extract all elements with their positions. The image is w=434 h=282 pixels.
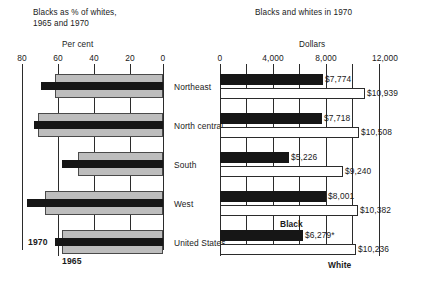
right-bar-black-united-states bbox=[220, 230, 303, 241]
right-axis-unit-label: Dollars bbox=[299, 40, 325, 49]
legend-label-white: White bbox=[328, 260, 351, 270]
right-value-white-northeast: $10,939 bbox=[367, 88, 398, 98]
left-axis-unit-label: Per cent bbox=[62, 40, 93, 49]
right-value-black-south: $5,226 bbox=[291, 152, 317, 162]
row-label-south: South bbox=[174, 160, 196, 170]
right-bar-white-south bbox=[220, 166, 343, 177]
right-xtick-8000: 8,000 bbox=[315, 53, 336, 63]
left-xtick-0: 0 bbox=[161, 53, 166, 63]
right-bar-white-united-states bbox=[220, 244, 356, 255]
right-xtick-12000: 12,000 bbox=[372, 53, 398, 63]
left-xtick-40: 40 bbox=[89, 53, 99, 63]
right-bar-white-northeast bbox=[220, 88, 365, 99]
left-annotation-1970: 1970 bbox=[28, 237, 48, 247]
right-value-white-united-states: $10,236 bbox=[358, 244, 389, 254]
right-bar-white-west bbox=[220, 205, 358, 216]
left-bar-1970-west bbox=[27, 199, 163, 207]
row-label-northeast: Northeast bbox=[174, 82, 211, 92]
left-bar-1970-north-central bbox=[34, 121, 163, 129]
right-bar-white-north-central bbox=[220, 127, 359, 138]
left-xtick-80: 80 bbox=[17, 53, 27, 63]
left-xtick-20: 20 bbox=[125, 53, 135, 63]
left-axis-line-80 bbox=[22, 64, 23, 250]
left-annotation-1965: 1965 bbox=[62, 256, 82, 266]
right-bar-black-west bbox=[220, 191, 326, 202]
right-chart-panel: Blacks and whites in 1970 Dollars 0 4,00… bbox=[212, 0, 434, 282]
right-bar-black-northeast bbox=[220, 74, 323, 85]
right-value-white-west: $10,382 bbox=[360, 205, 391, 215]
row-label-west: West bbox=[174, 199, 193, 209]
left-bar-1970-northeast bbox=[41, 82, 163, 90]
right-value-white-north-central: $10,508 bbox=[361, 127, 392, 137]
right-bar-black-north-central bbox=[220, 113, 322, 124]
right-chart-title: Blacks and whites in 1970 bbox=[255, 8, 352, 19]
right-value-black-west: $8,001 bbox=[328, 191, 354, 201]
right-value-white-south: $9,240 bbox=[345, 166, 371, 176]
left-zero-axis bbox=[163, 64, 164, 250]
right-value-black-united-states: $6,279* bbox=[305, 230, 335, 240]
right-xtick-4000: 4,000 bbox=[262, 53, 283, 63]
left-xtick-60: 60 bbox=[53, 53, 63, 63]
right-value-black-northeast: $7,774 bbox=[325, 74, 351, 84]
legend-label-black: Black bbox=[280, 219, 303, 229]
left-bar-1970-south bbox=[62, 160, 163, 168]
right-xtick-0: 0 bbox=[218, 53, 223, 63]
left-bar-1970-united-states bbox=[55, 238, 163, 246]
right-bar-black-south bbox=[220, 152, 289, 163]
left-chart-title: Blacks as % of whites, 1965 and 1970 bbox=[33, 8, 117, 29]
right-value-black-north-central: $7,718 bbox=[324, 113, 350, 123]
